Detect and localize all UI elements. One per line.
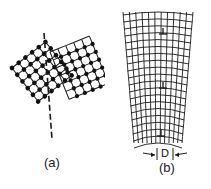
caption-a: (a) <box>44 155 60 170</box>
panel-b: (b) D <box>105 0 211 189</box>
panel-a: (a) <box>0 0 105 189</box>
caption-b: (b) <box>159 160 175 175</box>
bent-lattice-diagram <box>105 0 211 189</box>
spacing-label-text: D <box>161 147 169 159</box>
spacing-label: D <box>155 147 175 159</box>
